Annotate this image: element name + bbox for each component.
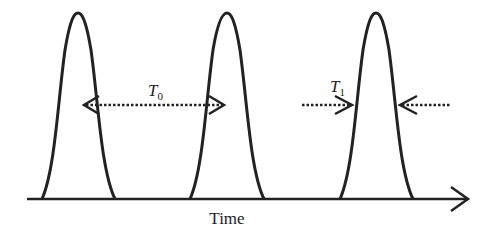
label-t0: T0 bbox=[148, 81, 163, 102]
width-arrow-t1-right bbox=[400, 96, 451, 114]
pulse-2 bbox=[190, 13, 264, 199]
pulse-train-diagram: T0 T1 Time bbox=[0, 0, 494, 237]
width-arrow-t1-left bbox=[302, 96, 352, 114]
time-axis bbox=[27, 187, 468, 211]
axis-label-time: Time bbox=[209, 209, 244, 228]
label-t1: T1 bbox=[330, 77, 345, 98]
